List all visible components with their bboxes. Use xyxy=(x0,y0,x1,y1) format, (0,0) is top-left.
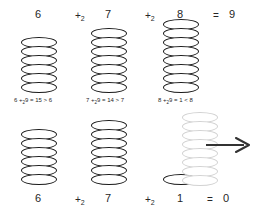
formula-3-lhs: 8 + xyxy=(158,97,167,103)
formula-2-subscript: 2 xyxy=(95,100,98,105)
top-stack-2 xyxy=(91,28,127,92)
top-operator-2-subscript: 2 xyxy=(151,15,155,22)
bottom-equals-sign: = xyxy=(207,195,213,205)
top-operator-1: +2 xyxy=(75,11,85,22)
formula-2: 7 +29 = 14 > 7 xyxy=(86,97,124,104)
bottom-result-label: 0 xyxy=(218,193,234,204)
top-term-1-label: 6 xyxy=(27,9,49,20)
bottom-operator-2: +2 xyxy=(145,195,155,206)
top-operator-2: +2 xyxy=(145,11,155,22)
ghost-disc xyxy=(182,175,218,186)
bottom-operator-1-subscript: 2 xyxy=(81,199,85,206)
formula-3-subscript: 2 xyxy=(167,100,170,105)
bottom-operator-1: +2 xyxy=(75,195,85,206)
disc xyxy=(91,82,127,93)
formula-1-subscript: 2 xyxy=(23,100,26,105)
bottom-term-1-label: 6 xyxy=(27,193,49,204)
bottom-term-3-label: 1 xyxy=(169,193,191,204)
top-result-label: 9 xyxy=(224,9,240,20)
formula-3-rhs: 9 = 1 < 8 xyxy=(169,97,193,103)
top-stack-3 xyxy=(163,19,199,92)
formula-2-lhs: 7 + xyxy=(86,97,95,103)
top-stack-1 xyxy=(21,37,57,92)
disc xyxy=(21,82,57,93)
top-operator-1-subscript: 2 xyxy=(81,15,85,22)
formula-2-rhs: 9 = 14 > 7 xyxy=(97,97,124,103)
formula-1-lhs: 6 + xyxy=(14,97,23,103)
disc xyxy=(91,174,127,185)
formula-3: 8 +29 = 1 < 8 xyxy=(158,97,193,104)
top-term-2-label: 7 xyxy=(97,9,119,20)
bottom-term-2-label: 7 xyxy=(97,193,119,204)
bottom-stack-1 xyxy=(21,129,57,184)
bottom-operator-2-subscript: 2 xyxy=(151,199,155,206)
disc xyxy=(21,174,57,185)
right-arrow-icon xyxy=(206,137,254,153)
formula-1-rhs: 9 = 15 > 6 xyxy=(25,97,52,103)
top-equals-sign: = xyxy=(213,11,219,21)
disc xyxy=(163,82,199,93)
diagram-canvas: 6 +2 7 +2 8 = 9 6 +29 = 15 > 6 7 +29 = xyxy=(0,0,256,214)
formula-1: 6 +29 = 15 > 6 xyxy=(14,97,52,104)
bottom-stack-2 xyxy=(91,120,127,184)
